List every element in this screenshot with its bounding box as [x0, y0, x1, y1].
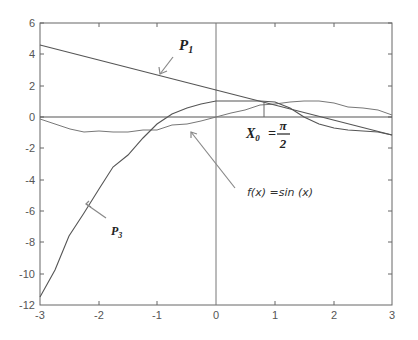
svg-text:X0: X0 [245, 126, 260, 143]
svg-text:0: 0 [29, 111, 35, 123]
svg-text:-10: -10 [19, 268, 35, 280]
label-x0: X0 = π 2 [245, 118, 290, 151]
svg-text:4: 4 [29, 48, 35, 60]
svg-text:=: = [268, 126, 276, 141]
x-tick-labels: -3 -2 -1 0 1 2 3 [35, 309, 395, 321]
svg-text:-8: -8 [25, 236, 35, 248]
svg-text:-6: -6 [25, 205, 35, 217]
chart-canvas: 6 4 2 0 -2 -4 -6 -8 -10 -12 -3 -2 -1 0 1… [0, 0, 418, 340]
svg-text:-2: -2 [25, 142, 35, 154]
svg-text:-4: -4 [25, 174, 35, 186]
label-p3: P3 [111, 224, 122, 240]
svg-text:2: 2 [331, 309, 337, 321]
svg-text:1: 1 [272, 309, 278, 321]
svg-text:6: 6 [29, 17, 35, 29]
svg-text:2: 2 [279, 136, 287, 151]
label-p1: P1 [179, 37, 193, 55]
svg-text:2: 2 [29, 80, 35, 92]
svg-text:0: 0 [213, 309, 219, 321]
svg-text:-2: -2 [94, 309, 104, 321]
svg-text:-12: -12 [19, 299, 35, 311]
svg-text:-3: -3 [35, 309, 45, 321]
svg-text:π: π [279, 118, 287, 133]
svg-text:3: 3 [389, 309, 395, 321]
annotation-arrows [86, 57, 235, 218]
label-fx: f(x) =sin (x) [247, 186, 313, 199]
svg-text:-1: -1 [152, 309, 162, 321]
y-tick-labels: 6 4 2 0 -2 -4 -6 -8 -10 -12 [19, 17, 35, 311]
